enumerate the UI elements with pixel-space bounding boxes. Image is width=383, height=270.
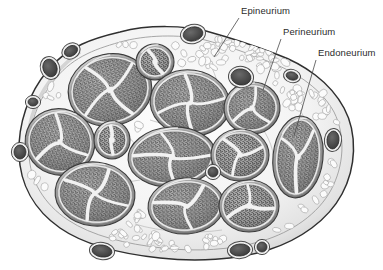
fat-cell <box>275 72 280 80</box>
fat-cell <box>297 91 303 97</box>
nerve-cross-section-figure: Epineurium Perineurium Endoneurium <box>0 0 383 270</box>
fat-cell <box>129 41 137 49</box>
fat-cell <box>257 64 265 73</box>
fat-cell <box>170 246 179 250</box>
fat-cell <box>271 58 280 63</box>
nerve-illustration-svg: Epineurium Perineurium Endoneurium <box>0 0 383 270</box>
label-epineurium: Epineurium <box>241 5 290 16</box>
fat-cell <box>134 225 141 233</box>
fat-cell <box>216 60 225 66</box>
blood-vessel <box>205 164 220 179</box>
label-endoneurium: Endoneurium <box>318 47 376 58</box>
vessel-lumen <box>14 145 26 159</box>
fat-cell <box>134 212 142 219</box>
label-perineurium: Perineurium <box>283 26 335 37</box>
vessel-lumen <box>28 98 38 106</box>
blood-vessel <box>25 95 40 108</box>
fat-cell <box>210 240 218 246</box>
blood-vessel <box>254 239 269 254</box>
fat-cell <box>256 57 263 61</box>
fascicle <box>94 121 130 159</box>
blood-vessel <box>11 142 28 161</box>
fat-cell <box>109 236 116 241</box>
fat-cell <box>41 183 48 191</box>
fat-cell <box>285 223 294 229</box>
vessel-lumen <box>208 167 218 177</box>
fascicle <box>219 180 279 232</box>
vessel-lumen <box>257 242 267 252</box>
